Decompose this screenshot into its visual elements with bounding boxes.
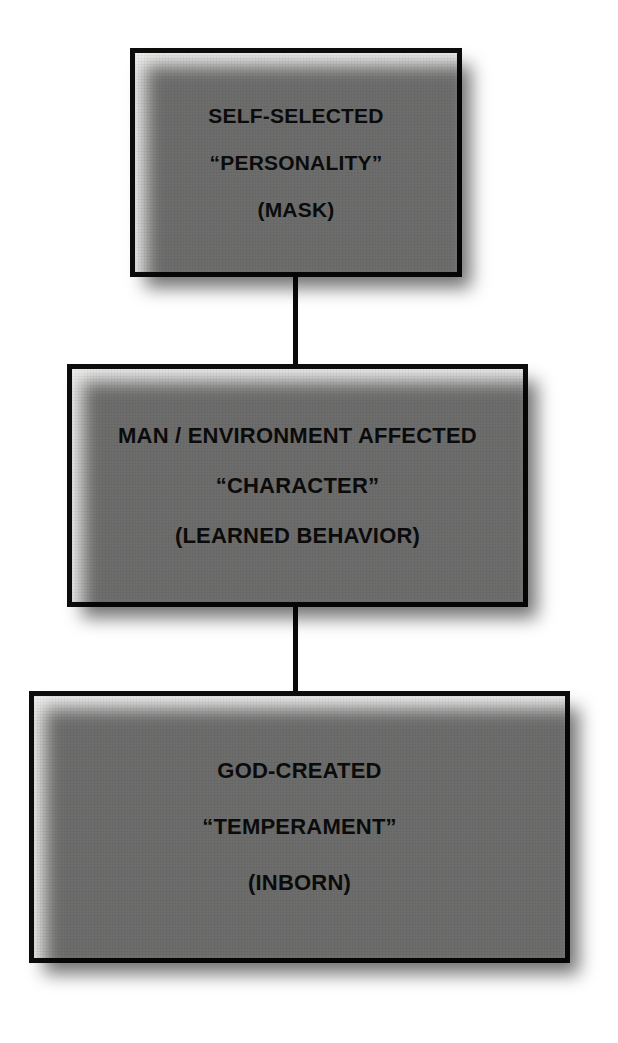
connector-personality-to-character: [293, 275, 298, 367]
node-personality-line-1: SELF-SELECTED: [208, 105, 383, 126]
connector-character-to-temperament: [293, 605, 298, 694]
node-personality: SELF-SELECTED “PERSONALITY” (MASK): [130, 48, 462, 277]
node-temperament-line-3: (INBORN): [248, 872, 351, 894]
node-character-line-2: “CHARACTER”: [216, 475, 380, 497]
diagram-canvas: SELF-SELECTED “PERSONALITY” (MASK) MAN /…: [0, 0, 618, 1043]
node-personality-line-3: (MASK): [257, 199, 334, 220]
node-character-line-1: MAN / ENVIRONMENT AFFECTED: [118, 425, 477, 447]
node-temperament-line-1: GOD-CREATED: [217, 760, 381, 782]
node-personality-line-2: “PERSONALITY”: [210, 152, 383, 173]
node-temperament-line-2: “TEMPERAMENT”: [202, 816, 397, 838]
node-character: MAN / ENVIRONMENT AFFECTED “CHARACTER” (…: [67, 364, 528, 607]
node-temperament: GOD-CREATED “TEMPERAMENT” (INBORN): [29, 691, 570, 963]
node-character-line-3: (LEARNED BEHAVIOR): [175, 525, 420, 547]
